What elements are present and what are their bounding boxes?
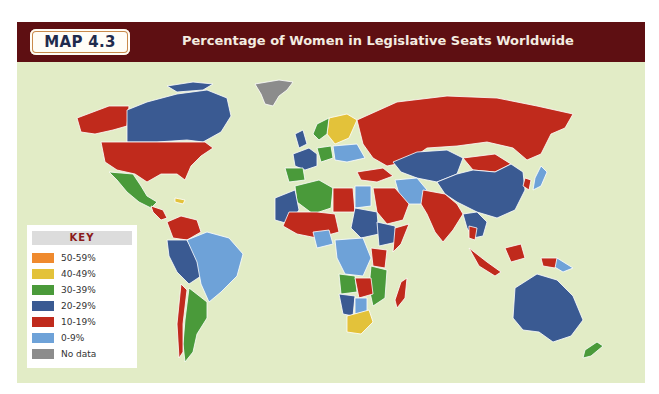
map-header: MAP 4.3 Percentage of Women in Legislati… [17, 22, 645, 62]
legend-item: 0-9% [32, 332, 84, 344]
region-caribbean [175, 198, 185, 204]
region-indonesia [469, 248, 501, 276]
region-argentina [183, 288, 207, 362]
legend-item: 30-39% [32, 284, 96, 296]
legend-item: 50-59% [32, 252, 96, 264]
region-turkey [357, 168, 393, 182]
region-russia [357, 96, 573, 166]
region-new-zealand [583, 342, 603, 358]
region-japan [533, 166, 547, 190]
legend-swatch-30-39 [32, 285, 54, 295]
region-central-europe [317, 146, 333, 162]
region-sahel [283, 212, 339, 238]
map-title: Percentage of Women in Legislative Seats… [182, 33, 574, 48]
region-united-kingdom [295, 130, 307, 148]
region-eastern-europe [333, 144, 365, 162]
region-alaska [77, 106, 129, 134]
legend-swatch-10-19 [32, 317, 54, 327]
region-central-america [151, 206, 167, 220]
region-norway [313, 118, 329, 140]
region-libya [333, 188, 355, 212]
legend-swatch-50-59 [32, 253, 54, 263]
legend-label: 10-19% [61, 317, 96, 327]
legend-item: 40-49% [32, 268, 96, 280]
region-canada [127, 90, 231, 142]
region-angola [339, 274, 357, 294]
region-new-guinea-west [541, 258, 557, 268]
legend-label: 30-39% [61, 285, 96, 295]
region-scandinavia [327, 114, 357, 144]
world-map: KEY 50-59% 40-49% 30-39% 20-29% 10-19% [17, 62, 645, 383]
legend-label: 50-59% [61, 253, 96, 263]
legend-label: 0-9% [61, 333, 84, 343]
region-horn-of-africa [393, 224, 409, 252]
legend-label: 40-49% [61, 269, 96, 279]
map-figure: MAP 4.3 Percentage of Women in Legislati… [17, 22, 645, 383]
region-zambia-zimbabwe [355, 278, 373, 298]
region-nigeria [313, 230, 333, 248]
map-legend: KEY 50-59% 40-49% 30-39% 20-29% 10-19% [27, 225, 137, 368]
legend-item: No data [32, 348, 96, 360]
legend-item: 20-29% [32, 300, 96, 312]
region-madagascar [395, 278, 407, 308]
region-algeria [295, 180, 333, 214]
region-greenland [255, 80, 293, 106]
legend-label: 20-29% [61, 301, 96, 311]
region-western-europe [293, 148, 317, 170]
legend-item: 10-19% [32, 316, 96, 328]
region-central-africa [335, 238, 371, 276]
map-number: MAP 4.3 [44, 33, 115, 51]
region-namibia [339, 294, 355, 316]
region-spain [285, 168, 305, 182]
legend-title: KEY [32, 231, 132, 245]
region-east-africa [371, 248, 387, 268]
legend-label: No data [61, 349, 96, 359]
legend-swatch-no-data [32, 349, 54, 359]
region-thailand [469, 226, 477, 240]
map-number-badge: MAP 4.3 [30, 29, 130, 55]
legend-swatch-40-49 [32, 269, 54, 279]
legend-swatch-0-9 [32, 333, 54, 343]
region-egypt [355, 186, 371, 208]
region-borneo [505, 244, 525, 262]
region-sudan [351, 208, 379, 238]
legend-swatch-20-29 [32, 301, 54, 311]
region-australia [513, 274, 583, 342]
